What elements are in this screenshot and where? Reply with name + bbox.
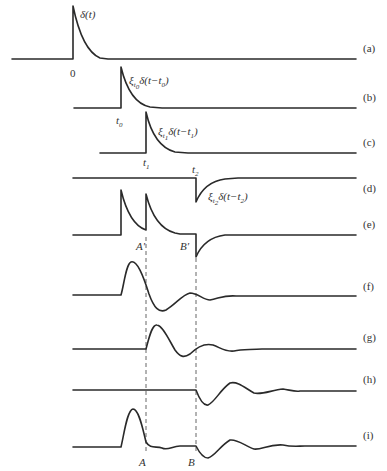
trace-d: t2 ξt2δ(t−t2) (d) [73, 163, 376, 207]
row-label-g: (g) [363, 331, 376, 344]
row-label-h: (h) [363, 373, 376, 386]
row-label-b: (b) [363, 91, 376, 104]
trace-c: ξt1δ(t−t1) t1 (c) [100, 112, 376, 171]
trace-f: (f) [73, 262, 374, 311]
trace-b: ξt0δ(t−t0) t0 (b) [74, 67, 376, 129]
row-label-i: (i) [363, 429, 374, 442]
row-label-c: (c) [363, 136, 376, 149]
marker-a-prime: A′ [135, 240, 146, 252]
axis-label-t2: t2 [192, 163, 199, 178]
trace-h: (h) [73, 373, 376, 405]
label-xi-t1: ξt1δ(t−t1) [158, 125, 198, 142]
axis-label-zero: 0 [70, 67, 76, 79]
axis-label-t1: t1 [143, 156, 150, 171]
axis-label-t0: t0 [116, 114, 123, 129]
trace-g: (g) [73, 325, 376, 356]
marker-a: A [138, 456, 146, 468]
trace-i: A B (i) [73, 409, 374, 468]
row-label-d: (d) [363, 182, 376, 195]
label-xi-t2: ξt2δ(t−t2) [208, 190, 248, 207]
row-label-e: (e) [363, 218, 376, 231]
row-label-f: (f) [363, 280, 374, 293]
row-label-a: (a) [363, 42, 376, 55]
impulse-response-diagram: δ(t) 0 (a) ξt0δ(t−t0) t0 (b) ξt1δ(t−t1) … [0, 0, 387, 471]
marker-b-prime: B′ [180, 240, 190, 252]
label-xi-t0: ξt0δ(t−t0) [129, 74, 169, 91]
trace-a: δ(t) 0 (a) [12, 6, 376, 79]
marker-b: B [188, 456, 195, 468]
label-delta-t: δ(t) [80, 8, 96, 21]
